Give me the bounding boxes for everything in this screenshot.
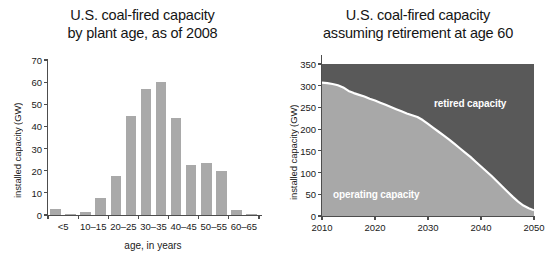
y-tick-label: 30 xyxy=(18,143,42,154)
bar xyxy=(171,118,182,215)
bar xyxy=(95,198,106,215)
y-tick-label: 50 xyxy=(18,99,42,110)
bar xyxy=(246,214,257,215)
y-tick-mark xyxy=(318,85,322,86)
y-tick-label: 10 xyxy=(18,187,42,198)
y-tick-label: 20 xyxy=(18,165,42,176)
y-tick-mark xyxy=(318,107,322,108)
y-tick-label: 60 xyxy=(18,77,42,88)
y-tick-mark xyxy=(318,129,322,130)
chart-panel-left: U.S. coal-fired capacity by plant age, a… xyxy=(0,0,285,262)
y-tick-mark xyxy=(44,59,48,60)
x-tick-label: 60–65 xyxy=(231,221,257,232)
y-tick-label: 100 xyxy=(290,167,316,178)
y-tick-mark xyxy=(44,82,48,83)
x-tick-label: 2050 xyxy=(523,222,544,233)
y-tick-mark xyxy=(44,148,48,149)
bar xyxy=(216,171,227,215)
chart-title-left-line2: by plant age, as of 2008 xyxy=(0,24,285,42)
x-tick-mark xyxy=(78,215,79,219)
y-axis-label-right: installed capacity (GW) xyxy=(288,80,299,200)
y-tick-label: 0 xyxy=(290,211,316,222)
y-tick-mark xyxy=(44,170,48,171)
y-tick-mark xyxy=(318,194,322,195)
y-tick-mark xyxy=(318,150,322,151)
x-tick-mark xyxy=(228,215,229,219)
x-axis-line-left xyxy=(47,215,262,216)
operating-capacity-label: operating capacity xyxy=(333,189,420,200)
bar xyxy=(111,176,122,215)
x-tick-label: 20–25 xyxy=(110,221,136,232)
y-tick-label: 50 xyxy=(290,189,316,200)
bar xyxy=(80,212,91,215)
x-tick-mark xyxy=(168,215,169,219)
chart-title-right-line1: U.S. coal-fired capacity xyxy=(346,7,490,23)
y-tick-mark xyxy=(44,126,48,127)
x-tick-mark xyxy=(374,216,375,220)
x-axis-label-left: age, in years xyxy=(124,240,181,251)
x-tick-mark xyxy=(198,215,199,219)
bar xyxy=(50,209,61,215)
x-tick-label: 40–45 xyxy=(170,221,196,232)
figure-container: U.S. coal-fired capacity by plant age, a… xyxy=(0,0,551,262)
bar xyxy=(156,82,167,215)
x-tick-label: 10–15 xyxy=(80,221,106,232)
chart-title-left: U.S. coal-fired capacity by plant age, a… xyxy=(0,6,285,42)
bar xyxy=(141,89,152,215)
y-tick-mark xyxy=(318,172,322,173)
x-tick-mark xyxy=(108,215,109,219)
y-tick-label: 200 xyxy=(290,124,316,135)
y-tick-mark xyxy=(44,192,48,193)
y-tick-label: 300 xyxy=(290,80,316,91)
y-tick-label: 70 xyxy=(18,55,42,66)
x-tick-label: 2020 xyxy=(364,222,385,233)
x-tick-mark xyxy=(47,215,48,219)
bar xyxy=(65,214,76,215)
x-tick-mark xyxy=(533,216,534,220)
y-tick-mark xyxy=(318,63,322,64)
x-tick-label: 2040 xyxy=(470,222,491,233)
chart-title-left-line1: U.S. coal-fired capacity xyxy=(70,7,214,23)
y-tick-label: 40 xyxy=(18,121,42,132)
x-tick-mark xyxy=(321,216,322,220)
x-tick-label: 2030 xyxy=(417,222,438,233)
y-tick-label: 150 xyxy=(290,145,316,156)
chart-title-right-line2: assuming retirement at age 60 xyxy=(285,24,551,42)
x-tick-mark xyxy=(138,215,139,219)
x-tick-mark xyxy=(427,216,428,220)
bar xyxy=(231,210,242,215)
y-axis-label-left: installed capacity (GW) xyxy=(12,78,23,198)
x-tick-label: 2010 xyxy=(311,222,332,233)
retired-capacity-label: retired capacity xyxy=(434,98,506,109)
plot-area-left xyxy=(48,60,259,215)
y-tick-mark xyxy=(44,104,48,105)
x-tick-mark xyxy=(480,216,481,220)
bar xyxy=(201,163,212,215)
x-tick-label: 30–35 xyxy=(140,221,166,232)
bar xyxy=(186,165,197,215)
y-tick-label: 250 xyxy=(290,102,316,113)
y-tick-label: 0 xyxy=(18,210,42,221)
y-tick-label: 350 xyxy=(290,59,316,70)
x-tick-label: <5 xyxy=(58,221,69,232)
bar xyxy=(126,116,137,215)
x-tick-label: 50–55 xyxy=(201,221,227,232)
chart-title-right: U.S. coal-fired capacity assuming retire… xyxy=(285,6,551,42)
x-tick-mark xyxy=(258,215,259,219)
